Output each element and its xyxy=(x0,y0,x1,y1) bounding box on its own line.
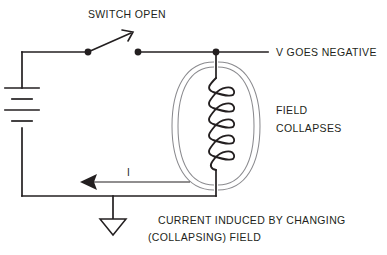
label-field: FIELD xyxy=(276,104,308,116)
switch-contact-node-dot xyxy=(135,49,142,56)
caption-line-2: (COLLAPSING) FIELD xyxy=(148,231,261,243)
label-switch-open: SWITCH OPEN xyxy=(88,8,166,20)
label-current-symbol: I xyxy=(127,167,130,178)
label-v-goes-negative: V GOES NEGATIVE xyxy=(276,46,377,58)
switch-blade[interactable] xyxy=(88,33,131,52)
inductor-collapsing-field-diagram: SWITCH OPEN V GOES NEGATIVE FIELD COLLAP… xyxy=(0,0,387,255)
current-arrow xyxy=(80,174,190,190)
coil-top-junction-dot xyxy=(213,49,220,56)
inductor-coil xyxy=(209,78,234,170)
switch[interactable] xyxy=(85,30,142,55)
label-collapses: COLLAPSES xyxy=(276,122,342,134)
field-line-left-inner xyxy=(178,67,214,185)
circuit-diagram-canvas: SWITCH OPEN V GOES NEGATIVE FIELD COLLAP… xyxy=(0,0,387,255)
battery xyxy=(5,88,39,121)
switch-pivot-node-dot xyxy=(85,49,92,56)
caption-line-1: CURRENT INDUCED BY CHANGING xyxy=(158,214,346,226)
coil-winding xyxy=(209,78,234,170)
ground-symbol xyxy=(100,219,126,235)
